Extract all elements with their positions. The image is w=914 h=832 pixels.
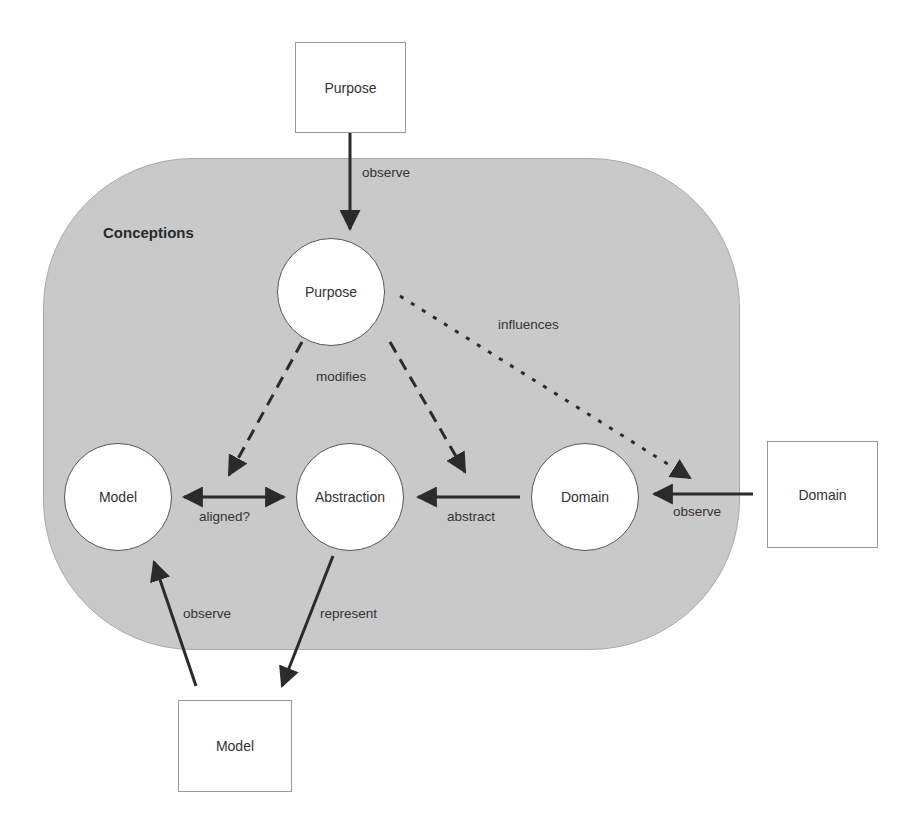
- model-box: Model: [178, 700, 292, 792]
- label-observe-purpose: observe: [362, 165, 410, 180]
- domain-box-label: Domain: [798, 487, 846, 503]
- domain-node-label: Domain: [561, 489, 609, 505]
- model-node-label: Model: [99, 489, 137, 505]
- abstraction-node-label: Abstraction: [315, 489, 385, 505]
- domain-node: Domain: [531, 443, 639, 551]
- diagram-canvas: Conceptions Purpose Domain Model: [0, 0, 914, 832]
- label-aligned: aligned?: [199, 509, 250, 524]
- label-observe-domain: observe: [673, 504, 721, 519]
- domain-box: Domain: [767, 441, 878, 548]
- label-observe-model: observe: [183, 606, 231, 621]
- purpose-node: Purpose: [277, 238, 385, 346]
- model-box-label: Model: [216, 738, 254, 754]
- purpose-box: Purpose: [295, 42, 406, 133]
- label-abstract: abstract: [447, 509, 495, 524]
- label-represent: represent: [320, 606, 377, 621]
- model-node: Model: [64, 443, 172, 551]
- abstraction-node: Abstraction: [296, 443, 404, 551]
- purpose-node-label: Purpose: [305, 284, 357, 300]
- conceptions-label: Conceptions: [103, 224, 194, 241]
- label-influences: influences: [498, 317, 559, 332]
- purpose-box-label: Purpose: [324, 80, 376, 96]
- label-modifies: modifies: [316, 369, 366, 384]
